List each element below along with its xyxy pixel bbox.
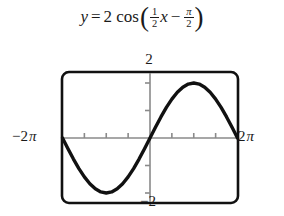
equation-open-paren: ( xyxy=(140,2,149,32)
equation-cos-function: cos xyxy=(116,7,140,26)
equation-b-fraction: 12 xyxy=(150,6,159,30)
equation-b-numerator: 1 xyxy=(150,6,159,17)
equation-phase-numerator: π xyxy=(184,6,193,17)
y-axis-max-label: 2 xyxy=(134,52,164,67)
equation-phase-denominator: 2 xyxy=(184,17,193,29)
y-axis-min-label: −2 xyxy=(133,194,163,209)
x-max-number: 2 xyxy=(238,128,246,144)
x-min-pi-symbol: π xyxy=(28,128,37,144)
equation-minus-sign: − xyxy=(168,7,184,26)
function-equation: y=2 cos(12x−π2) xyxy=(0,6,284,30)
equation-amplitude: 2 xyxy=(104,7,113,26)
graph-container: 2 −2 −2π 2π xyxy=(0,44,284,216)
equation-phase-fraction: π2 xyxy=(184,6,193,30)
x-max-pi-symbol: π xyxy=(246,128,255,144)
x-axis-min-label: −2π xyxy=(12,129,36,144)
equation-close-paren: ) xyxy=(195,2,204,32)
equation-b-denominator: 2 xyxy=(150,17,159,29)
x-min-number: 2 xyxy=(20,128,28,144)
equation-equals-sign: = xyxy=(88,7,104,26)
equation-lhs: y xyxy=(80,7,88,26)
equation-x-variable: x xyxy=(160,7,168,26)
x-axis-max-label: 2π xyxy=(238,129,254,144)
